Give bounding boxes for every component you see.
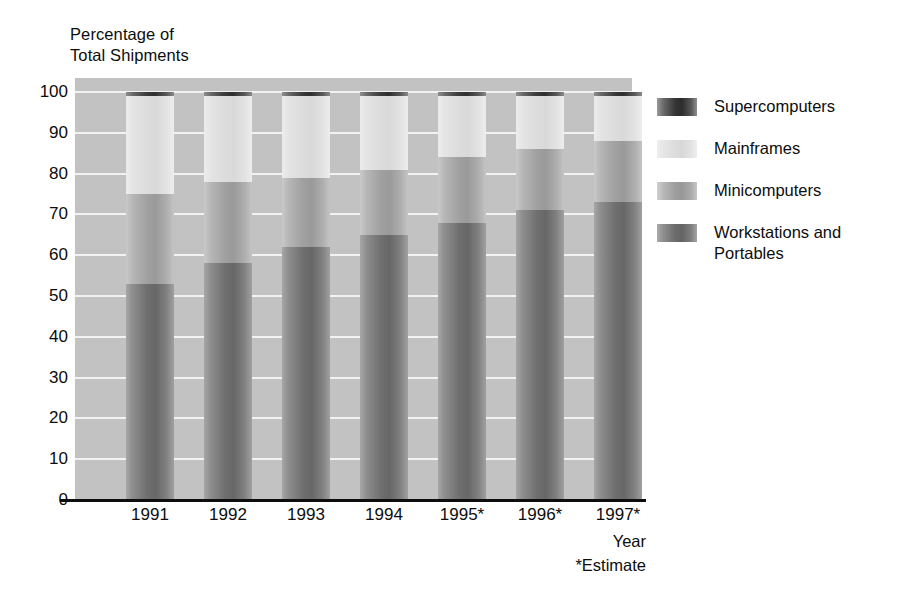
bar-segment-main — [204, 96, 252, 182]
bar-segment-mini — [438, 157, 486, 222]
bar-1994 — [360, 92, 408, 500]
bar-segment-super — [516, 92, 564, 96]
bar-1995-est — [438, 92, 486, 500]
legend-item-super[interactable]: Supercomputers — [657, 96, 902, 117]
bar-segment-super — [204, 92, 252, 96]
legend-label: Supercomputers — [714, 96, 835, 117]
bar-segment-main — [360, 96, 408, 169]
bar-segment-work — [204, 263, 252, 500]
legend-label: Workstations and Portables — [714, 222, 841, 264]
x-axis-title: Year — [520, 532, 646, 551]
bar-1997-est — [594, 92, 642, 500]
bar-segment-main — [594, 96, 642, 141]
plot-inner — [75, 78, 632, 500]
bar-segment-mini — [204, 182, 252, 264]
bar-segment-super — [282, 92, 330, 96]
y-axis-tick-labels: 1009080706050403020100 — [8, 0, 68, 600]
bar-segment-work — [594, 202, 642, 500]
bar-segment-main — [438, 96, 486, 157]
x-axis-tick-label: 1996* — [495, 505, 585, 525]
bar-segment-super — [360, 92, 408, 96]
legend-item-mini[interactable]: Minicomputers — [657, 180, 902, 201]
x-axis-tick-label: 1994 — [339, 505, 429, 525]
bar-segment-mini — [360, 170, 408, 235]
y-axis-title: Percentage of Total Shipments — [70, 24, 189, 66]
legend-swatch-super-icon — [657, 98, 697, 116]
legend-item-work[interactable]: Workstations and Portables — [657, 222, 902, 264]
x-axis-line — [60, 499, 646, 502]
y-axis-tick-label: 80 — [8, 165, 68, 182]
x-axis-tick-label: 1993 — [261, 505, 351, 525]
bar-segment-super — [126, 92, 174, 96]
bar-segment-super — [594, 92, 642, 96]
bar-1992 — [204, 92, 252, 500]
y-axis-tick-label: 0 — [8, 491, 68, 508]
bar-segment-work — [282, 247, 330, 500]
bar-segment-main — [126, 96, 174, 194]
y-axis-tick-label: 10 — [8, 450, 68, 467]
bar-1996-est — [516, 92, 564, 500]
bar-1993 — [282, 92, 330, 500]
y-axis-tick-label: 40 — [8, 328, 68, 345]
bar-segment-mini — [594, 141, 642, 202]
legend-swatch-work-icon — [657, 224, 697, 242]
plot-area — [75, 78, 632, 500]
bar-segment-work — [360, 235, 408, 500]
y-axis-tick-label: 60 — [8, 246, 68, 263]
bar-1991 — [126, 92, 174, 500]
legend-swatch-main-icon — [657, 140, 697, 158]
bar-segment-main — [516, 96, 564, 149]
x-axis-tick-label: 1992 — [183, 505, 273, 525]
x-axis-tick-label: 1997* — [573, 505, 663, 525]
bar-segment-mini — [282, 178, 330, 247]
bar-segment-work — [438, 223, 486, 500]
legend-item-main[interactable]: Mainframes — [657, 138, 902, 159]
y-axis-tick-label: 20 — [8, 409, 68, 426]
legend-swatch-mini-icon — [657, 182, 697, 200]
bar-segment-main — [282, 96, 330, 178]
bar-segment-mini — [516, 149, 564, 210]
legend-label: Mainframes — [714, 138, 800, 159]
bar-segment-work — [516, 210, 564, 500]
legend-label: Minicomputers — [714, 180, 821, 201]
legend: SupercomputersMainframesMinicomputersWor… — [657, 96, 902, 285]
estimate-footnote: *Estimate — [490, 556, 646, 575]
x-axis-tick-label: 1991 — [105, 505, 195, 525]
y-axis-tick-label: 70 — [8, 205, 68, 222]
y-axis-tick-label: 50 — [8, 287, 68, 304]
y-axis-tick-label: 30 — [8, 369, 68, 386]
bar-segment-super — [438, 92, 486, 96]
y-axis-tick-label: 90 — [8, 124, 68, 141]
bar-segment-mini — [126, 194, 174, 284]
bar-segment-work — [126, 284, 174, 500]
y-axis-tick-label: 100 — [8, 83, 68, 100]
x-axis-tick-label: 1995* — [417, 505, 507, 525]
